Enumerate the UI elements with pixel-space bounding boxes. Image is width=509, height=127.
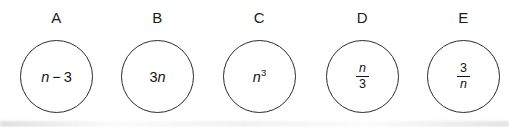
token-variable: n <box>158 69 166 85</box>
expression-3-over-n: 3n <box>457 61 470 92</box>
token-minus-operator: − <box>52 69 60 85</box>
option-circle-d: n3 <box>326 40 399 113</box>
token-exponent: 3 <box>261 67 266 78</box>
token-number: 3 <box>64 69 72 85</box>
token-number: 3 <box>149 69 157 85</box>
expression-3n: 3n <box>149 69 165 85</box>
option-group-a: A n−3 <box>20 9 93 113</box>
option-circle-e: 3n <box>427 40 500 113</box>
token-denominator: 3 <box>356 76 369 92</box>
option-circle-c: n3 <box>223 40 296 113</box>
token-variable: n <box>253 69 261 85</box>
option-label-c: C <box>223 9 296 27</box>
option-label-b: B <box>121 9 194 27</box>
token-numerator: 3 <box>457 61 470 76</box>
option-group-b: B 3n <box>121 9 194 113</box>
expression-n-cubed: n3 <box>253 69 266 85</box>
option-label-e: E <box>427 9 500 27</box>
expression-n-minus-3: n−3 <box>41 69 72 85</box>
option-circle-a: n−3 <box>20 40 93 113</box>
option-label-a: A <box>20 9 93 27</box>
option-group-d: D n3 <box>326 9 399 113</box>
scan-noise-artifact <box>0 121 509 127</box>
option-group-e: E 3n <box>427 9 500 113</box>
token-variable: n <box>41 69 49 85</box>
option-label-d: D <box>326 9 399 27</box>
expression-n-over-3: n3 <box>356 61 369 92</box>
labelled-circles-diagram: A n−3 B 3n C n3 D n3 E 3n <box>0 0 509 127</box>
token-denominator: n <box>457 76 470 92</box>
token-numerator: n <box>356 61 369 76</box>
option-group-c: C n3 <box>223 9 296 113</box>
option-circle-b: 3n <box>121 40 194 113</box>
